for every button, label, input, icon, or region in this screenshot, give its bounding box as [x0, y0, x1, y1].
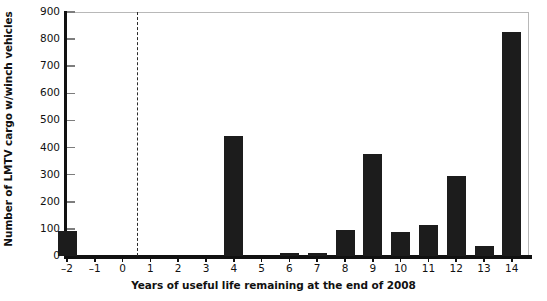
bar: [280, 253, 299, 256]
x-axis-tick-label: 6: [274, 262, 304, 275]
y-axis-tick-mark: [67, 65, 75, 67]
x-axis-tick-label: 4: [219, 262, 249, 275]
bar: [419, 225, 438, 256]
bar: [336, 230, 355, 256]
y-axis-tick-label: 700: [26, 60, 60, 71]
x-axis-tick-label: 9: [358, 262, 388, 275]
y-axis-tick-mark: [67, 147, 75, 149]
y-axis-tick-label: 600: [26, 87, 60, 98]
y-axis-tick-mark: [67, 93, 75, 95]
y-axis-tick-label: 400: [26, 142, 60, 153]
bar: [308, 253, 327, 256]
x-axis-tick-label: 13: [469, 262, 499, 275]
x-axis-tick-label: –1: [80, 262, 110, 275]
y-axis-tick-mark: [67, 228, 75, 230]
x-axis-tick-label: 3: [191, 262, 221, 275]
y-axis-tick-mark: [67, 38, 75, 40]
bar-chart-figure: Number of LMTV cargo w/winch vehicles 01…: [0, 0, 547, 301]
y-axis-tick-mark: [67, 11, 75, 13]
x-axis-tick-label: 14: [497, 262, 527, 275]
x-axis-tick-label: 8: [330, 262, 360, 275]
x-axis-tick-label: 7: [302, 262, 332, 275]
x-axis-title: Years of useful life remaining at the en…: [0, 279, 547, 291]
y-axis-tick-mark: [67, 174, 75, 176]
y-axis-tick-label: 0: [26, 250, 60, 261]
bar: [447, 176, 466, 256]
x-axis-tick-label: 5: [247, 262, 277, 275]
bar: [475, 246, 494, 256]
x-axis-tick-label: –2: [52, 262, 82, 275]
bar: [224, 136, 243, 256]
bar: [391, 232, 410, 256]
x-axis-tick-label: 0: [108, 262, 138, 275]
bar: [58, 231, 77, 256]
x-axis-tick-label: 10: [386, 262, 416, 275]
x-axis-tick-label: 1: [135, 262, 165, 275]
y-axis-tick-label: 300: [26, 169, 60, 180]
x-axis-tick-label: 2: [163, 262, 193, 275]
x-axis-tick-label: 11: [413, 262, 443, 275]
y-axis-tick-label: 100: [26, 223, 60, 234]
bar: [363, 154, 382, 256]
y-axis-tick-mark: [67, 201, 75, 203]
y-axis-title: Number of LMTV cargo w/winch vehicles: [0, 0, 16, 258]
x-axis-tick-label: 12: [441, 262, 471, 275]
y-axis-tick-label: 500: [26, 114, 60, 125]
bar: [502, 32, 521, 256]
y-axis-tick-labels: 0100200300400500600700800900: [22, 0, 60, 301]
zero-life-divider: [137, 12, 138, 256]
y-axis-tick-mark: [67, 120, 75, 122]
y-axis-tick-label: 900: [26, 6, 60, 17]
y-axis-tick-label: 200: [26, 196, 60, 207]
y-axis-tick-label: 800: [26, 33, 60, 44]
